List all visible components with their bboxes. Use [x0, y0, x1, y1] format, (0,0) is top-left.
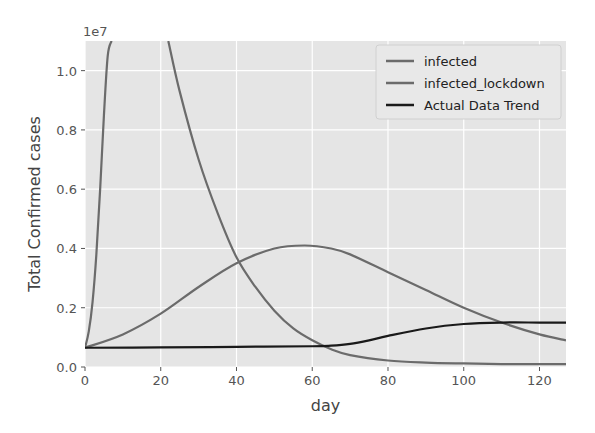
legend: infectedinfected_lockdownActual Data Tre… [376, 45, 561, 119]
legend-label: infected_lockdown [424, 76, 545, 91]
y-axis-label: Total Confirmed cases [25, 116, 44, 293]
x-tick-label: 100 [451, 373, 476, 388]
y-tick-label: 0.8 [56, 123, 77, 138]
x-tick-label: 40 [228, 373, 245, 388]
y-tick-label: 0.2 [56, 301, 77, 316]
legend-label: Actual Data Trend [424, 98, 540, 113]
x-axis-label: day [311, 396, 340, 415]
x-axis: 020406080100120 [81, 367, 552, 388]
legend-label: infected [424, 54, 477, 69]
x-tick-label: 80 [380, 373, 397, 388]
y-axis: 0.00.20.40.60.81.0 [56, 64, 85, 375]
y-offset-label: 1e7 [83, 24, 108, 39]
x-tick-label: 60 [304, 373, 321, 388]
y-tick-label: 1.0 [56, 64, 77, 79]
chart: 020406080100120 0.00.20.40.60.81.0 1e7 d… [0, 0, 595, 433]
y-tick-label: 0.0 [56, 360, 77, 375]
y-tick-label: 0.6 [56, 182, 77, 197]
y-tick-label: 0.4 [56, 241, 77, 256]
x-tick-label: 0 [81, 373, 89, 388]
x-tick-label: 120 [527, 373, 552, 388]
x-tick-label: 20 [152, 373, 169, 388]
